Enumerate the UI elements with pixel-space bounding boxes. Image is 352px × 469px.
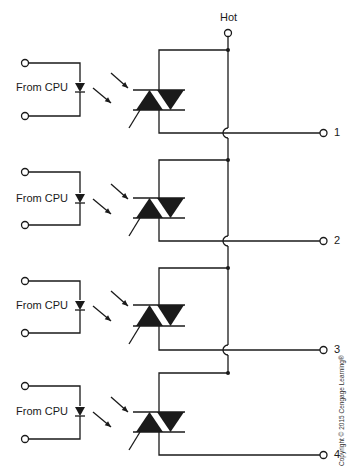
input-terminal bbox=[22, 222, 29, 229]
output-terminal-2 bbox=[320, 238, 327, 245]
from-cpu-label-3: From CPU bbox=[16, 300, 68, 311]
hot-terminal bbox=[225, 30, 232, 37]
triac-down-triangle-icon bbox=[157, 90, 184, 110]
output-terminal-3 bbox=[320, 347, 327, 354]
input-terminal bbox=[22, 113, 29, 120]
triac-up-triangle-icon bbox=[136, 412, 163, 432]
triac-down-triangle-icon bbox=[157, 305, 184, 326]
input-terminal bbox=[22, 436, 29, 443]
triac-mt2-wire bbox=[159, 160, 228, 198]
output-label-3: 3 bbox=[334, 344, 340, 355]
triac-mt1-wire bbox=[159, 218, 223, 241]
triac-mt2-wire bbox=[159, 50, 228, 90]
triac-up-triangle-icon bbox=[136, 90, 163, 110]
optoisolated-triac-schematic bbox=[0, 0, 352, 469]
triac-gate-lead bbox=[129, 110, 140, 128]
triac-down-triangle-icon bbox=[157, 412, 184, 432]
hot-label: Hot bbox=[220, 12, 237, 23]
triac-mt2-wire bbox=[159, 373, 228, 412]
triac-mt1-wire bbox=[159, 432, 223, 455]
copyright-notice: Copyright © 2015 Cengage Learning® bbox=[339, 355, 346, 466]
input-terminal bbox=[22, 278, 29, 285]
triac-up-triangle-icon bbox=[136, 198, 163, 218]
output-label-2: 2 bbox=[334, 235, 340, 246]
from-cpu-label-1: From CPU bbox=[16, 82, 68, 93]
triac-gate-lead bbox=[129, 326, 140, 344]
input-terminal bbox=[22, 383, 29, 390]
output-terminal-1 bbox=[320, 130, 327, 137]
triac-gate-lead bbox=[129, 218, 140, 236]
input-terminal bbox=[22, 60, 29, 67]
triac-mt1-wire bbox=[159, 326, 223, 350]
triac-mt1-wire bbox=[159, 110, 223, 133]
from-cpu-label-2: From CPU bbox=[16, 193, 68, 204]
triac-down-triangle-icon bbox=[157, 198, 184, 218]
input-terminal bbox=[22, 169, 29, 176]
from-cpu-label-4: From CPU bbox=[16, 406, 68, 417]
output-terminal-4 bbox=[320, 452, 327, 459]
input-terminal bbox=[22, 330, 29, 337]
output-label-1: 1 bbox=[334, 127, 340, 138]
triac-mt2-wire bbox=[159, 268, 228, 305]
triac-up-triangle-icon bbox=[136, 305, 163, 326]
triac-gate-lead bbox=[129, 432, 140, 450]
